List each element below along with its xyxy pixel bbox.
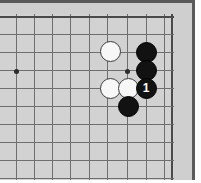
canvas-margin-right	[195, 0, 201, 183]
grid-line-boundary-right	[171, 14, 173, 183]
grid-line-horizontal	[0, 142, 174, 143]
black-stone-3[interactable]	[118, 96, 139, 117]
grid-line-horizontal	[0, 34, 174, 35]
grid-line-horizontal	[0, 160, 174, 161]
move-number-label: 1	[137, 79, 156, 98]
grid-line-horizontal	[0, 106, 174, 107]
grid-line-horizontal	[0, 124, 174, 125]
grid-line-vertical	[89, 14, 90, 183]
grid-line-vertical	[164, 14, 165, 183]
board-edge-right-highlight	[174, 3, 192, 180]
grid-line-horizontal	[0, 16, 174, 18]
grid-line-vertical	[34, 14, 35, 183]
board-edge-top	[0, 0, 195, 3]
star-point-center	[125, 69, 130, 74]
star-point-left	[14, 69, 19, 74]
canvas-margin-bottom	[0, 180, 201, 183]
board-play-area[interactable]: 1	[0, 14, 174, 183]
grid-line-vertical	[70, 14, 71, 183]
grid-line-horizontal	[0, 178, 174, 179]
go-board-diagram: 1	[0, 0, 201, 183]
board-edge-top-highlight	[0, 3, 192, 14]
grid-line-vertical	[52, 14, 53, 183]
board-frame: 1	[0, 0, 195, 180]
grid-line-vertical	[16, 14, 17, 183]
grid-line-vertical	[146, 14, 147, 183]
black-stone-move-1[interactable]: 1	[136, 78, 157, 99]
grid-line-vertical	[107, 14, 108, 183]
white-stone-1[interactable]	[100, 41, 121, 62]
